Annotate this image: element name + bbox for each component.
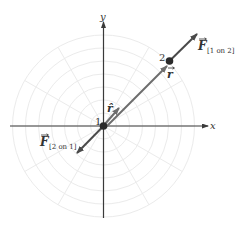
particle-2 xyxy=(166,57,174,65)
x-axis-label: x xyxy=(210,120,216,131)
particle-2-label: 2 xyxy=(159,52,165,63)
y-axis-label: y xyxy=(99,11,106,22)
r-label: r xyxy=(167,67,175,81)
particle-1-label: 1 xyxy=(95,116,101,127)
r-hat-label: r̂ xyxy=(107,102,114,115)
force-diagram: x y 1 2 r r̂ F [1 on 2] F [2 on 1] xyxy=(0,0,244,229)
svg-text:[1 on 2]: [1 on 2] xyxy=(207,47,235,55)
svg-text:[2 on 1]: [2 on 1] xyxy=(49,143,77,151)
force-2-on-1-label: F [2 on 1] xyxy=(39,134,77,151)
force-1-on-2-vector xyxy=(170,34,198,61)
force-1-on-2-label: F [1 on 2] xyxy=(197,38,235,55)
svg-text:r: r xyxy=(167,68,174,81)
